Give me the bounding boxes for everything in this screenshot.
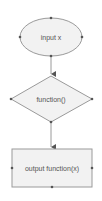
connection-handle-right[interactable] bbox=[91, 167, 94, 170]
connection-handle-bottom[interactable] bbox=[50, 121, 53, 124]
node-function-diamond[interactable]: function() bbox=[10, 76, 94, 123]
connection-handle-top[interactable] bbox=[50, 17, 53, 20]
connection-handle-bottom[interactable] bbox=[51, 186, 54, 189]
node-output-label: output function(x) bbox=[25, 165, 79, 173]
connection-handle-right[interactable] bbox=[91, 98, 94, 101]
node-function-label: function() bbox=[36, 96, 65, 104]
connection-handle-bottom[interactable] bbox=[50, 55, 53, 58]
node-input-label: input x bbox=[41, 34, 62, 42]
connection-handle-left[interactable] bbox=[10, 98, 13, 101]
connection-handle-right[interactable] bbox=[81, 36, 84, 39]
flowchart-canvas: input x function() output function(x) bbox=[0, 0, 102, 201]
node-input-ellipse[interactable]: input x bbox=[19, 17, 84, 58]
node-output-rectangle[interactable]: output function(x) bbox=[11, 149, 94, 188]
connection-handle-left[interactable] bbox=[19, 36, 22, 39]
connection-handle-left[interactable] bbox=[11, 167, 14, 170]
